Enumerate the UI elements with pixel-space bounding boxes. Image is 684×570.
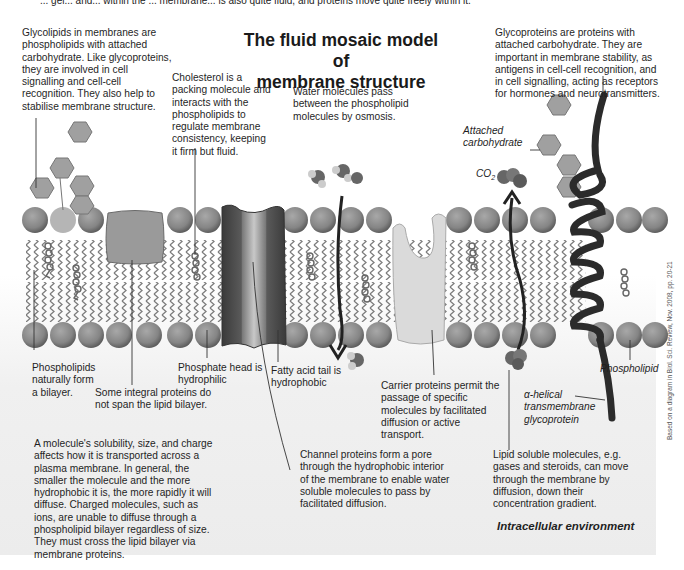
alpha-helical-glycoprotein-label: α-helical transmembrane glycoprotein [524, 389, 609, 426]
co2-subscript: 2 [491, 174, 495, 181]
solubility-annotation: A molecule's solubility, size, and charg… [34, 438, 219, 561]
intracellular-environment-label: Intracellular environment [497, 520, 634, 532]
carrier-protein [393, 214, 446, 344]
glycolipid-annotation: Glycolipids in membranes are phospholipi… [22, 27, 172, 113]
integral-protein [106, 211, 164, 265]
co2-label: CO2 [476, 168, 495, 184]
co2-molecule [497, 168, 527, 188]
co2-text: CO [476, 168, 491, 179]
integral-protein-annotation: Some integral proteins do not span the l… [95, 387, 220, 412]
water-annotation: Water molecules pass between the phospho… [293, 86, 413, 123]
phospholipid-label: Phospholipid [600, 363, 658, 375]
glycoprotein-annotation: Glycoproteins are proteins with attached… [495, 27, 665, 101]
channel-protein-annotation: Channel proteins form a pore through the… [300, 449, 450, 510]
source-credit: Based on a diagram in Biol. Sci. Review,… [666, 261, 673, 440]
glycolipid-carbohydrate [30, 122, 94, 214]
lipid-soluble-molecule [505, 349, 527, 370]
lipid-soluble-annotation: Lipid soluble molecules, e.g. gases and … [493, 449, 643, 510]
phospholipid-bilayer-annotation: Phospholipids naturally form a bilayer. [32, 362, 102, 399]
carrier-protein-annotation: Carrier proteins permit the passage of s… [381, 380, 501, 441]
fatty-acid-tail-annotation: Fatty acid tail is hydrophobic [271, 365, 361, 390]
phosphate-head-annotation: Phosphate head is hydrophilic [178, 362, 263, 387]
cholesterol-annotation: Cholesterol is a packing molecule and in… [172, 72, 272, 158]
attached-carbohydrate-label: Attached carbohydrate [463, 125, 528, 150]
